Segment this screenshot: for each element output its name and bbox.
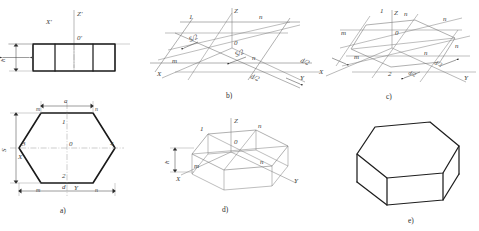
- panel-c-point-n2: n: [443, 15, 447, 23]
- panel-d-axis-y-label: Y: [294, 177, 299, 185]
- panel-a-front-view: h X' Z' 0': [0, 10, 130, 72]
- panel-c-dim-d-half-1: d/2: [408, 69, 417, 77]
- panel-d-point-n-top: n: [258, 122, 262, 130]
- panel-d-height-arrow-top: [173, 147, 177, 150]
- hex-dim-d-arrow-left: [18, 189, 21, 194]
- hex-dim-d-label: d: [62, 183, 66, 191]
- panel-b-dim-d-half-1: d/2: [249, 72, 261, 83]
- hex-vertex-3: 3: [21, 140, 26, 148]
- panel-b-diag-2: [188, 13, 232, 80]
- panel-b-axis-x-label: X: [156, 70, 162, 78]
- hex-dim-s-label: S: [0, 148, 8, 152]
- panel-d-origin-label: 0: [234, 138, 238, 146]
- hex-label-n-bottom: n: [95, 187, 98, 193]
- panel-e-caption: e): [408, 216, 414, 225]
- hex-dim-a-arrow-right: [91, 104, 94, 109]
- panel-e-solid: e): [357, 122, 459, 225]
- panel-d-axis-x: [181, 152, 231, 175]
- panel-c-dim-d-half-2: d/2: [434, 59, 443, 67]
- panel-a-top-view: a d S m n m n 1 2 3 4 0 X Y a): [0, 97, 124, 215]
- height-arrow-bottom: [14, 69, 19, 72]
- panel-b-point-n-top: n: [259, 13, 263, 21]
- panel-b-point-m: m: [172, 57, 177, 65]
- panel-b-axis-z-label: Z: [234, 7, 238, 15]
- panel-d: h Z X Y 0 1 n m n d): [163, 117, 299, 214]
- panel-b: S/2 S/2 d/2 d/2 Z X Y 0 1 n m n b): [150, 7, 346, 100]
- drawing-sheet: h X' Z' 0' a d S m n m: [0, 0, 479, 231]
- panel-c-point-m1: m: [341, 29, 346, 37]
- front-view-origin-label: 0': [77, 34, 83, 42]
- panel-c-diag-6: [352, 38, 455, 49]
- panel-c-point-2: 2: [388, 70, 392, 78]
- panel-a-caption: a): [60, 206, 66, 215]
- panel-d-axis-y: [231, 152, 296, 183]
- hex-dim-s-arrow-top: [14, 112, 19, 115]
- hex-vertex-2: 2: [62, 172, 66, 180]
- panel-b-diag-3: [248, 18, 290, 80]
- panel-b-point-1: 1: [189, 13, 193, 21]
- panel-c-diag-1: [336, 16, 370, 66]
- hex-vertex-4: 4: [110, 140, 114, 148]
- panel-d-diag-3: [224, 130, 256, 170]
- panel-b-point-n: n: [252, 54, 256, 62]
- panel-e-top-face: [357, 122, 459, 178]
- panel-d-height-label: h: [163, 160, 171, 164]
- hex-origin-0: 0: [69, 140, 73, 148]
- panel-b-axis-y-label: Y: [300, 74, 305, 82]
- panel-c-axis-x-label: X: [318, 68, 324, 76]
- panel-b-tick-d2: [332, 58, 346, 64]
- panel-c-point-n4: n: [455, 42, 459, 50]
- panel-c-caption: c): [386, 92, 392, 101]
- panel-b-caption: b): [226, 91, 233, 100]
- panel-c-axis-y: [392, 48, 466, 82]
- panel-d-caption: d): [222, 205, 229, 214]
- hex-label-m-top: m: [36, 106, 41, 112]
- panel-c-origin-label: 0: [395, 29, 399, 37]
- panel-d-point-m: m: [194, 162, 199, 170]
- height-arrow-top: [14, 43, 19, 46]
- front-view-height-label: h: [0, 58, 7, 62]
- panel-b-origin-label: 0: [234, 39, 238, 47]
- hex-vertex-1: 1: [62, 118, 66, 126]
- hex-dim-s-arrow-bottom: [14, 181, 19, 184]
- panel-d-axis-x-label: X: [175, 175, 181, 183]
- hex-label-m-bottom: m: [36, 187, 41, 193]
- panel-c-point-n1: n: [404, 10, 408, 18]
- hex-label-n-top: n: [95, 106, 98, 112]
- panel-c-diag-5: [342, 36, 470, 66]
- panel-b-diag-6: [158, 25, 300, 60]
- hex-dim-d-arrow-right: [113, 189, 116, 194]
- panel-e-bottom-edges: [357, 174, 459, 205]
- front-view-axis-x-label: X': [45, 18, 52, 26]
- panel-b-dim-d-half-2: d/2: [299, 56, 311, 67]
- panel-d-axis-z-label: Z: [234, 117, 238, 125]
- panel-c-point-n3: n: [424, 49, 428, 57]
- panel-d-point-n: n: [260, 158, 264, 166]
- panel-c-axis-y-label: Y: [464, 74, 469, 82]
- panel-c: d/2 d/2 Z X Y 0 1 n m m n n n 2 c): [318, 7, 476, 101]
- panel-d-height-arrow-bottom: [173, 170, 177, 173]
- hex-dim-a-label: a: [64, 97, 68, 105]
- hex-axis-x-label: X: [17, 153, 23, 161]
- panel-b-diag-5: [168, 22, 290, 50]
- hex-dim-a-arrow-left: [40, 104, 43, 109]
- front-view-axis-z-label: Z': [77, 10, 83, 18]
- panel-c-point-1: 1: [380, 7, 384, 15]
- panel-c-axis-z-label: Z: [394, 9, 398, 17]
- panel-d-point-1: 1: [200, 125, 204, 133]
- technical-drawing-canvas: h X' Z' 0' a d S m n m: [0, 0, 479, 231]
- panel-c-point-m2: m: [354, 53, 359, 61]
